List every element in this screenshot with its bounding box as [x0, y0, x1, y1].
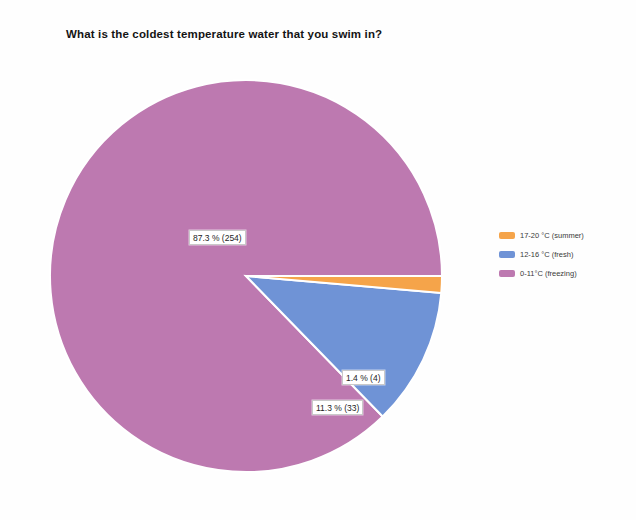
legend-item-summer[interactable]: 17-20 °C (summer)	[499, 228, 624, 243]
legend-swatch-freezing	[499, 270, 515, 277]
legend-label-summer: 17-20 °C (summer)	[520, 231, 584, 240]
legend-swatch-summer	[499, 232, 515, 239]
pie-plot-area: 87.3 % (254) 1.4 % (4) 11.3 % (33)	[44, 52, 456, 476]
pie-svg	[44, 52, 456, 476]
legend-label-freezing: 0-11°C (freezing)	[520, 269, 577, 278]
chart-title: What is the coldest temperature water th…	[66, 28, 382, 40]
pie-slices	[50, 80, 442, 472]
slice-data-label-freezing: 87.3 % (254)	[189, 230, 246, 245]
slice-data-label-fresh: 11.3 % (33)	[312, 400, 363, 415]
pie-chart-figure: What is the coldest temperature water th…	[0, 0, 636, 520]
legend-item-fresh[interactable]: 12-16 °C (fresh)	[499, 247, 624, 262]
legend-item-freezing[interactable]: 0-11°C (freezing)	[499, 266, 624, 281]
legend-label-fresh: 12-16 °C (fresh)	[520, 250, 573, 259]
slice-data-label-summer: 1.4 % (4)	[342, 370, 385, 385]
chart-legend: 17-20 °C (summer) 12-16 °C (fresh) 0-11°…	[499, 228, 624, 285]
legend-swatch-fresh	[499, 251, 515, 258]
